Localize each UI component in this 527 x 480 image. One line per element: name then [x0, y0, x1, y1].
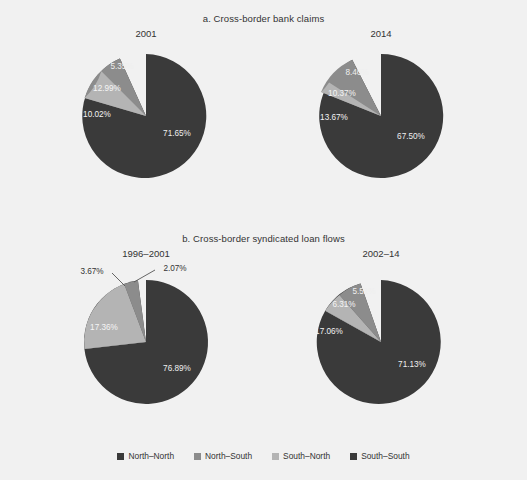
- chart-legend: North–North North–South South–North Sout…: [0, 451, 527, 461]
- pie-chart-1996-2001-svg: 2.07% 3.67% 76.89% 17.36%: [46, 264, 246, 414]
- pie-chart-2014-svg: 67.50% 8.46% 10.37% 13.67%: [281, 44, 481, 188]
- slice-value-north-south: 10.37%: [328, 89, 356, 98]
- slice-value-south-south: 2.07%: [163, 264, 186, 273]
- slices-1996-2001: [84, 280, 208, 404]
- slice-value-south-north: 10.02%: [83, 110, 111, 119]
- legend-swatch-north-north: [117, 453, 124, 460]
- legend-item-north-south: North–South: [194, 451, 252, 461]
- pie-chart-2014-label: 2014: [281, 28, 481, 39]
- legend-item-north-north: North–North: [117, 451, 174, 461]
- slice-value-north-north: 71.65%: [163, 129, 191, 138]
- slice-value-north-south: 3.67%: [80, 267, 103, 276]
- pie-chart-2002-14-label: 2002–14: [281, 248, 481, 259]
- legend-label-north-north: North–North: [128, 451, 174, 461]
- pie-chart-2002-14-svg: 71.13% 5.51% 6.31% 17.06%: [281, 264, 481, 414]
- pie-chart-1996-2001: 1996–2001 2.07% 3.67% 76.89% 17.36%: [46, 248, 246, 413]
- figure-canvas: a. Cross-border bank claims b. Cross-bor…: [0, 0, 527, 480]
- leader-line-south-south: [134, 270, 155, 282]
- legend-label-south-north: South–North: [283, 451, 330, 461]
- slice-value-south-north: 17.36%: [90, 323, 118, 332]
- panel-a-title: a. Cross-border bank claims: [0, 13, 527, 24]
- slice-value-north-north: 67.50%: [397, 132, 425, 141]
- legend-swatch-north-south: [194, 453, 201, 460]
- leader-line-north-south: [112, 273, 125, 286]
- slice-value-north-north: 76.89%: [163, 364, 191, 373]
- legend-swatch-south-south: [350, 453, 357, 460]
- slice-value-south-south: 5.35%: [110, 62, 133, 71]
- legend-item-south-north: South–North: [272, 451, 330, 461]
- pie-chart-2001-svg: 71.65% 5.35% 12.99% 10.02%: [46, 44, 246, 188]
- slice-value-north-south: 12.99%: [93, 84, 121, 93]
- legend-swatch-south-north: [272, 453, 279, 460]
- slice-value-south-south: 8.46%: [345, 68, 368, 77]
- panel-b-title: b. Cross-border syndicated loan flows: [0, 233, 527, 244]
- pie-chart-1996-2001-label: 1996–2001: [46, 248, 246, 259]
- legend-item-south-south: South–South: [350, 451, 409, 461]
- legend-label-north-south: North–South: [205, 451, 252, 461]
- pie-chart-2002-14: 2002–14 71.13% 5.51% 6.31% 17.06%: [281, 248, 481, 413]
- slice-value-south-north: 13.67%: [320, 113, 348, 122]
- legend-label-south-south: South–South: [361, 451, 409, 461]
- slice-value-south-north: 17.06%: [315, 327, 343, 336]
- pie-chart-2014: 2014 67.50% 8.46% 10.37% 13.67%: [281, 28, 481, 188]
- pie-chart-2001-label: 2001: [46, 28, 246, 39]
- slice-value-north-north: 71.13%: [398, 360, 426, 369]
- slice-value-north-south: 6.31%: [332, 300, 355, 309]
- slice-value-south-south: 5.51%: [352, 287, 375, 296]
- pie-chart-2001: 2001 71.65% 5.35% 12.99% 10.02%: [46, 28, 246, 188]
- slices-2002-14: [317, 280, 441, 404]
